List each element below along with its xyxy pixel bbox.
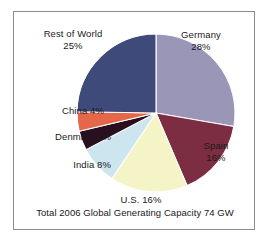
slice-label-india: India 8% [39,159,111,171]
slice-label-india-name: India [73,159,94,170]
slice-label-germany-name: Germany [164,29,238,41]
chart-frame: Rest of World 25% Germany 28% Spain 16% … [13,11,255,230]
slice-label-china: China 4% [24,105,104,117]
slice-label-spain: Spain 16% [188,140,244,163]
pie-chart-figure: Rest of World 25% Germany 28% Spain 16% … [0,0,269,244]
chart-caption: Total 2006 Global Generating Capacity 74… [14,207,256,218]
slice-label-china-value: 4% [90,105,104,116]
slice-label-china-name: China [62,105,87,116]
slice-label-germany: Germany 28% [164,29,238,52]
slice-label-spain-name: Spain [188,140,244,152]
slice-label-india-value: 8% [97,159,111,170]
slice-label-germany-value: 28% [164,41,238,53]
slice-label-us-name: U.S. [121,194,140,205]
slice-label-spain-value: 16% [188,152,244,164]
slice-label-denmark-name: Denmark [55,131,94,142]
slice-label-denmark: Denmark 4% [17,131,111,143]
slice-label-rest-of-world: Rest of World 25% [31,28,115,51]
slice-label-rest-of-world-name: Rest of World [31,28,115,40]
slice-label-rest-of-world-value: 25% [31,40,115,52]
pie-plot-area: Rest of World 25% Germany 28% Spain 16% … [14,12,256,231]
slice-label-denmark-value: 4% [97,131,111,142]
slice-label-us-value: 16% [142,194,161,205]
slice-label-us: U.S. 16% [99,194,183,206]
